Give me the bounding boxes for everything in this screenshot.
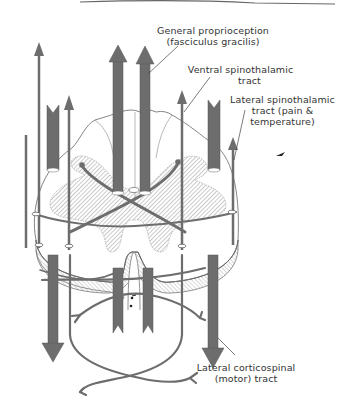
label-general-proprioception: General proprioception (fasciculus graci… (148, 25, 278, 47)
spinal-cord-diagram (0, 0, 348, 406)
central-canal (129, 188, 139, 193)
label-lateral-corticospinal: Lateral corticospinal (motor) tract (192, 362, 300, 384)
label-lateral-spinothalamic: Lateral spinothalamic tract (pain & temp… (225, 94, 340, 127)
stray-mark (276, 152, 285, 156)
label-ventral-spinothalamic: Ventral spinothalamic tract (183, 64, 298, 86)
top-rule (80, 1, 335, 4)
